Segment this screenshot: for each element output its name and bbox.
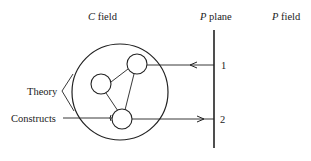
constructs-label: Constructs (11, 113, 56, 124)
construct-node-3 (112, 109, 132, 129)
construct-node-2 (91, 74, 111, 94)
edge-2-1 (111, 69, 128, 82)
theory-label: Theory (27, 86, 58, 97)
construct-node-1 (127, 54, 147, 74)
edge-1-3 (125, 74, 134, 110)
point-2-label: 2 (220, 114, 225, 125)
p-plane-label: P plane (199, 11, 232, 22)
p-field-label: P field (271, 11, 301, 22)
theory-constructs-diagram: C field P plane P field 1 2 Theory Const… (0, 0, 311, 161)
edge-2-3 (106, 93, 118, 111)
c-field-label: C field (88, 11, 118, 22)
theory-pointer-upper (62, 74, 73, 91)
point-1-label: 1 (221, 60, 226, 71)
